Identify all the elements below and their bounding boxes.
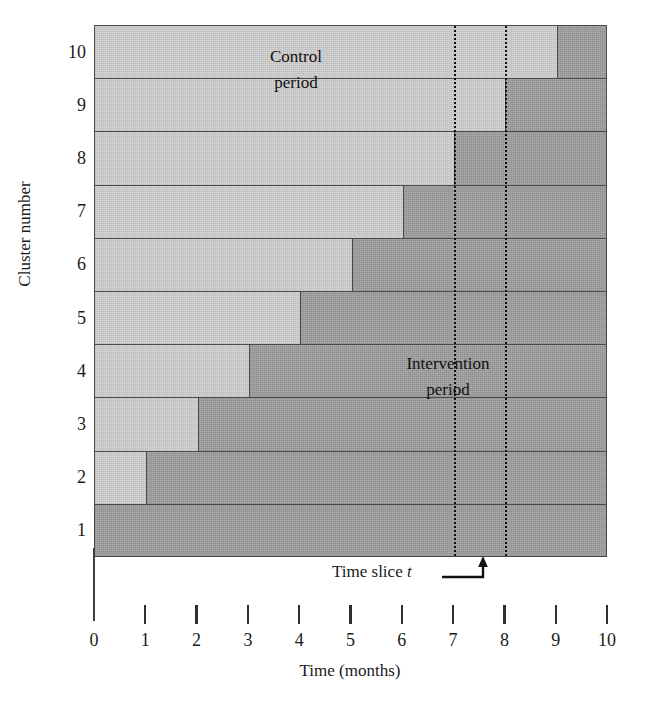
- x-tick-label-2: 2: [177, 629, 217, 651]
- x-tick-mark-3: [247, 605, 249, 624]
- time-slice-label: Time slice: [332, 562, 403, 581]
- x-tick-mark-4: [298, 605, 300, 624]
- x-axis-title: Time (months): [190, 661, 510, 681]
- x-tick-label-4: 4: [279, 629, 319, 651]
- x-tick-mark-1: [144, 605, 146, 624]
- x-tick-label-10: 10: [587, 629, 627, 651]
- time-slice-symbol: t: [407, 562, 412, 581]
- x-tick-label-5: 5: [331, 629, 371, 651]
- x-tick-mark-9: [555, 605, 557, 624]
- x-tick-label-6: 6: [382, 629, 422, 651]
- x-tick-label-8: 8: [484, 629, 524, 651]
- x-tick-label-3: 3: [228, 629, 268, 651]
- x-tick-mark-10: [606, 605, 608, 624]
- x-tick-mark-2: [195, 605, 197, 624]
- x-tick-label-1: 1: [125, 629, 165, 651]
- x-tick-label-7: 7: [433, 629, 473, 651]
- time-slice-leader-arrow: [440, 555, 490, 585]
- x-tick-label-0: 0: [74, 629, 114, 651]
- time-slice-annotation: Time slice t: [332, 562, 412, 582]
- x-tick-mark-8: [503, 605, 505, 624]
- x-tick-mark-5: [349, 605, 351, 624]
- stepped-wedge-figure: Cluster number 10987654321 Controlperiod…: [0, 0, 645, 709]
- x-tick-mark-7: [452, 605, 454, 624]
- x-axis-ticks: 012345678910: [0, 0, 645, 709]
- x-tick-label-9: 9: [536, 629, 576, 651]
- x-tick-mark-6: [401, 605, 403, 624]
